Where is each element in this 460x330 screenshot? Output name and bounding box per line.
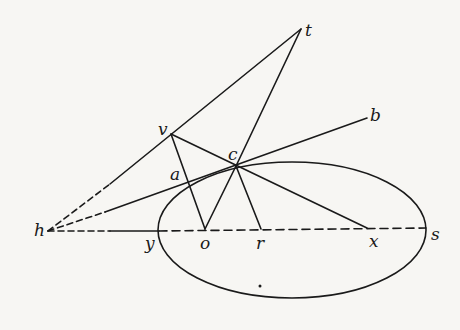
point-label-x: x: [369, 233, 379, 250]
point-label-h: h: [34, 222, 45, 239]
point-label-s: s: [431, 226, 440, 243]
point-label-v: v: [158, 121, 168, 138]
geometry-diagram: [0, 0, 460, 330]
line-y-s-dashed: [159, 228, 426, 231]
point-label-b: b: [370, 107, 381, 124]
point-label-r: r: [256, 235, 264, 252]
point-label-y: y: [145, 235, 155, 252]
point-label-t: t: [305, 22, 312, 39]
line-h-t-dashed: [48, 184, 110, 231]
ink-speck: [259, 285, 262, 288]
point-label-c: c: [228, 146, 238, 163]
point-label-a: a: [170, 166, 180, 183]
line-h-b-dashed: [48, 212, 105, 231]
point-label-o: o: [200, 235, 210, 252]
line-h-t-solid: [110, 29, 301, 184]
